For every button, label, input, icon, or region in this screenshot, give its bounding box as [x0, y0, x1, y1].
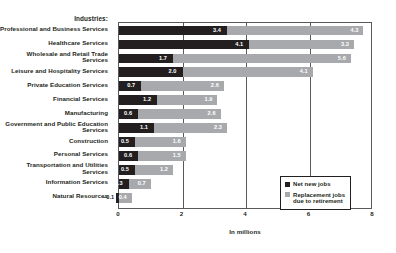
bar-value-net-new-jobs: 1.2	[143, 95, 151, 105]
bar-value-replacement-jobs: 2.6	[211, 81, 219, 91]
bar-value-replacement-jobs: 3.3	[341, 40, 349, 50]
chart-legend: Net new jobsReplacement jobsdue to retir…	[280, 176, 351, 210]
category-label: Personal Services	[0, 151, 108, 158]
bar-value-net-new-jobs: 0.6	[124, 109, 132, 119]
category-label: Financial Services	[0, 96, 108, 103]
bar-value-replacement-jobs: 5.6	[338, 54, 346, 64]
x-tick-label: 6	[307, 210, 310, 217]
bar-value-net-new-jobs: 0.5	[121, 165, 129, 175]
category-label: Information Services	[0, 179, 108, 186]
category-axis: Industries: Professional and Business Se…	[0, 14, 113, 24]
bar-value-replacement-jobs: 2.3	[214, 123, 222, 133]
bar-value-replacement-jobs: 1.5	[173, 151, 181, 161]
category-label: Transportation and Utilities Services	[0, 162, 108, 175]
bar-value-net-new-jobs: 2.0	[169, 67, 177, 77]
x-tick-label: 0	[116, 210, 119, 217]
bar-value-net-new-jobs: 1.7	[159, 54, 167, 64]
x-tick-label: 2	[180, 210, 183, 217]
category-axis-title: Industries:	[0, 14, 113, 24]
category-label: Wholesale and Retail Trade Services	[0, 51, 108, 64]
x-tick-label: 4	[243, 210, 246, 217]
category-label: Leisure and Hospitality Services	[0, 68, 108, 75]
bar-value-net-new-jobs: 3.4	[213, 26, 221, 36]
category-label: Construction	[0, 138, 108, 145]
bar-segment-net-new-jobs	[119, 40, 249, 50]
bar-value-net-new-jobs: 4.1	[235, 40, 243, 50]
bar-value-net-new-jobs: −0.1	[103, 193, 114, 203]
gridline-4	[246, 23, 247, 208]
bar-value-replacement-jobs: 0.4	[119, 193, 127, 203]
bar-value-replacement-jobs: 4.3	[350, 26, 358, 36]
category-label: Healthcare Services	[0, 40, 108, 47]
bar-segment-net-new-jobs	[119, 123, 154, 133]
category-label: Government and Public Education Services	[0, 121, 108, 134]
bar-value-replacement-jobs: 0.7	[138, 179, 146, 189]
bar-value-net-new-jobs: 0.5	[121, 137, 129, 147]
value-axis-label: In millions	[118, 228, 372, 235]
legend-label: Replacement jobsdue to retirement	[293, 192, 345, 205]
category-label: Professional and Business Services	[0, 26, 108, 33]
legend-swatch-icon	[285, 192, 290, 197]
bar-value-net-new-jobs: 1.1	[140, 123, 148, 133]
value-axis: 02468	[118, 210, 372, 222]
bar-value-replacement-jobs: 1.6	[173, 137, 181, 147]
category-label: Manufacturing	[0, 110, 108, 117]
bar-value-net-new-jobs: 0.7	[127, 81, 135, 91]
bar-segment-replacement-jobs	[183, 67, 313, 77]
category-label: Natural Resources	[0, 193, 108, 200]
bar-value-replacement-jobs: 1.9	[204, 95, 212, 105]
category-label: Private Education Services	[0, 82, 108, 89]
bar-value-replacement-jobs: 1.2	[160, 165, 168, 175]
bar-value-replacement-jobs: 2.6	[208, 109, 216, 119]
bar-segment-replacement-jobs	[173, 54, 351, 64]
bar-segment-replacement-jobs	[249, 40, 354, 50]
bar-value-net-new-jobs: 0.6	[124, 151, 132, 161]
legend-item[interactable]: Net new jobs	[285, 181, 345, 188]
bar-value-net-new-jobs: 0.3	[115, 179, 123, 189]
legend-item[interactable]: Replacement jobsdue to retirement	[285, 192, 345, 205]
legend-swatch-icon	[285, 182, 290, 187]
bar-segment-replacement-jobs	[227, 26, 364, 36]
bar-segment-net-new-jobs	[119, 95, 157, 105]
x-tick-label: 8	[370, 210, 373, 217]
bar-segment-net-new-jobs	[119, 26, 227, 36]
legend-label: Net new jobs	[293, 181, 331, 188]
stacked-bar-chart: Industries: Professional and Business Se…	[0, 0, 396, 253]
bar-value-replacement-jobs: 4.1	[300, 67, 308, 77]
